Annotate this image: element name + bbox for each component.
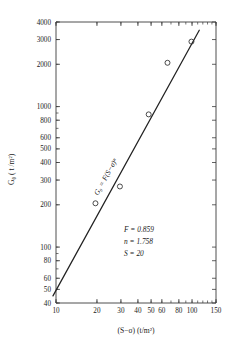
axes-frame bbox=[56, 22, 216, 303]
data-point bbox=[165, 60, 170, 65]
x-tick-label: 100 bbox=[187, 307, 198, 315]
y-tick-label: 50 bbox=[44, 286, 52, 294]
annotation-line: F = 0.859 bbox=[123, 225, 154, 234]
y-tick-label: 500 bbox=[40, 145, 51, 153]
y-axis-tick-labels: 4050608010020030040050060080010002000300… bbox=[37, 19, 52, 308]
x-tick-label: 40 bbox=[134, 307, 142, 315]
x-tick-label: 60 bbox=[158, 307, 166, 315]
x-axis-ticks bbox=[56, 22, 216, 303]
y-tick-label: 200 bbox=[40, 201, 51, 209]
y-tick-label: 60 bbox=[44, 275, 52, 283]
equation-label: G₀ = F(S−σ)ⁿ bbox=[92, 156, 120, 197]
y-axis-title: G₀ ( t /m²) bbox=[7, 153, 16, 185]
y-tick-label: 400 bbox=[40, 159, 51, 167]
x-axis-tick-labels: 10203040506080100150 bbox=[52, 307, 221, 315]
scatter-chart: 4050608010020030040050060080010002000300… bbox=[0, 0, 230, 355]
equation-label-group: G₀ = F(S−σ)ⁿ bbox=[92, 156, 120, 197]
x-tick-label: 10 bbox=[52, 307, 60, 315]
data-point bbox=[93, 201, 98, 206]
annotation-line: n = 1.758 bbox=[124, 237, 153, 246]
y-tick-label: 1000 bbox=[37, 103, 52, 111]
x-tick-label: 20 bbox=[93, 307, 101, 315]
figure-container: 4050608010020030040050060080010002000300… bbox=[0, 0, 230, 355]
y-tick-label: 40 bbox=[44, 300, 52, 308]
y-tick-label: 80 bbox=[44, 257, 52, 265]
y-tick-label: 600 bbox=[40, 134, 51, 142]
parameter-annotations: F = 0.859n = 1.758S = 20 bbox=[123, 225, 154, 258]
x-tick-label: 30 bbox=[117, 307, 125, 315]
y-tick-label: 300 bbox=[40, 177, 51, 185]
y-tick-label: 3000 bbox=[37, 36, 52, 44]
data-point bbox=[117, 184, 122, 189]
y-axis-ticks bbox=[56, 22, 216, 303]
y-tick-label: 2000 bbox=[37, 61, 52, 69]
x-tick-label: 150 bbox=[211, 307, 222, 315]
y-tick-label: 800 bbox=[40, 117, 51, 125]
y-tick-label: 4000 bbox=[37, 19, 52, 27]
y-axis-minor-ticks bbox=[56, 22, 59, 303]
x-axis-minor-ticks bbox=[56, 22, 216, 303]
x-axis-title: (S−σ) (t/m²) bbox=[117, 326, 154, 335]
x-tick-label: 50 bbox=[147, 307, 155, 315]
x-tick-label: 80 bbox=[175, 307, 183, 315]
annotation-line: S = 20 bbox=[124, 249, 144, 258]
y-tick-label: 100 bbox=[40, 244, 51, 252]
data-point bbox=[146, 112, 151, 117]
